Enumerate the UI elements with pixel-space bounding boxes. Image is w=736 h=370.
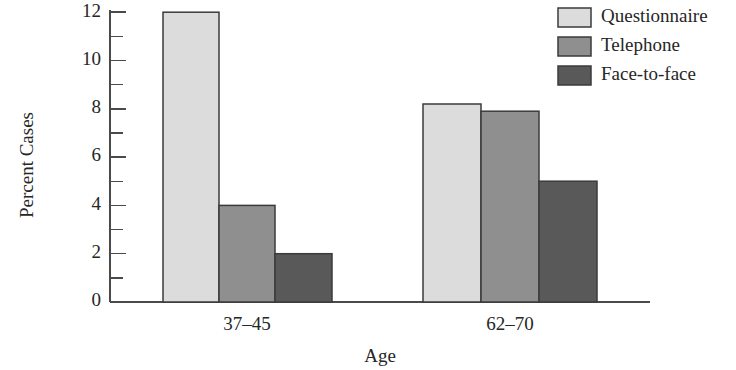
x-category-label-1: 37–45 [223, 313, 271, 334]
bar-face-to-face-37-45[interactable] [275, 254, 332, 302]
chart-canvas: 12 10 8 6 4 2 0 Percent Cases [0, 0, 736, 370]
y-tick-label: 6 [92, 144, 102, 165]
y-axis-title: Percent Cases [16, 112, 37, 218]
y-tick-label: 2 [92, 241, 102, 262]
y-tick-label: 4 [92, 193, 102, 214]
y-tick-label: 10 [82, 48, 101, 69]
x-axis-title: Age [364, 345, 396, 366]
legend-swatch-questionnaire [558, 8, 591, 27]
legend-label-questionnaire: Questionnaire [601, 5, 708, 26]
legend-item-questionnaire[interactable]: Questionnaire [558, 5, 708, 27]
y-tick-label: 12 [82, 0, 101, 21]
bar-questionnaire-37-45[interactable] [163, 12, 219, 302]
bar-telephone-62-70[interactable] [481, 111, 539, 302]
legend-label-telephone: Telephone [601, 34, 680, 55]
bar-telephone-37-45[interactable] [219, 205, 275, 302]
bar-questionnaire-62-70[interactable] [423, 104, 481, 302]
bar-chart-figure: 12 10 8 6 4 2 0 Percent Cases [0, 0, 736, 370]
y-tick-label: 8 [92, 96, 102, 117]
legend-swatch-face-to-face [558, 66, 591, 85]
legend-item-telephone[interactable]: Telephone [558, 34, 680, 56]
bar-face-to-face-62-70[interactable] [539, 181, 597, 302]
legend-item-face-to-face[interactable]: Face-to-face [558, 63, 696, 85]
y-tick-label: 0 [92, 289, 102, 310]
legend-swatch-telephone [558, 37, 591, 56]
legend-label-face-to-face: Face-to-face [601, 63, 696, 84]
x-category-label-2: 62–70 [486, 313, 534, 334]
